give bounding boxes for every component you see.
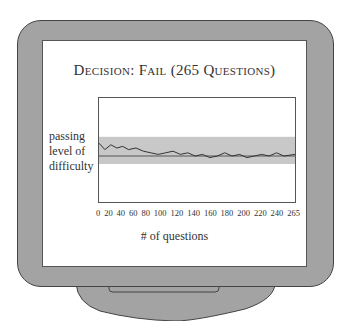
confidence-band bbox=[99, 137, 295, 164]
chart-title: Decision: Fail (265 Questions) bbox=[42, 62, 307, 79]
monitor-stand bbox=[75, 283, 276, 321]
x-axis-ticks: 020406080100120140160180200220240265 bbox=[96, 208, 300, 218]
x-tick-label: 60 bbox=[129, 208, 138, 218]
x-tick-label: 80 bbox=[141, 208, 150, 218]
x-tick-label: 240 bbox=[271, 208, 284, 218]
x-tick-label: 140 bbox=[187, 208, 200, 218]
x-tick-label: 220 bbox=[254, 208, 267, 218]
y-axis-label-line: difficulty bbox=[49, 159, 93, 174]
x-tick-label: 40 bbox=[117, 208, 126, 218]
y-axis-label-line: passing bbox=[49, 129, 93, 144]
x-tick-label: 0 bbox=[96, 208, 100, 218]
y-axis-label-line: level of bbox=[49, 144, 93, 159]
x-tick-label: 120 bbox=[171, 208, 184, 218]
y-axis-label: passing level of difficulty bbox=[49, 129, 93, 174]
x-tick-label: 200 bbox=[237, 208, 250, 218]
x-axis-label: # of questions bbox=[42, 229, 307, 244]
x-tick-label: 100 bbox=[154, 208, 167, 218]
x-tick-label: 20 bbox=[104, 208, 113, 218]
x-tick-label: 160 bbox=[204, 208, 217, 218]
chart-plot-area bbox=[98, 97, 296, 203]
x-tick-label: 180 bbox=[221, 208, 234, 218]
x-tick-label: 265 bbox=[287, 208, 300, 218]
